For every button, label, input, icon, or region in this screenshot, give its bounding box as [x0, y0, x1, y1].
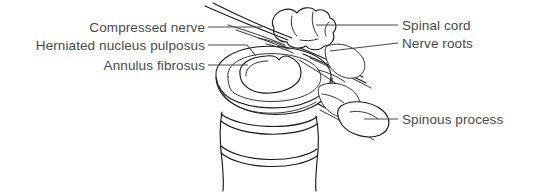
vertebral-body-group	[220, 112, 318, 191]
anatomical-figure: Compressed nerve Herniated nucleus pulpo…	[0, 0, 537, 195]
label-compressed-nerve: Compressed nerve	[0, 20, 205, 35]
label-annulus-fibrosus: Annulus fibrosus	[0, 58, 205, 73]
label-spinal-cord: Spinal cord	[402, 18, 471, 33]
nucleus-pulposus-group	[240, 56, 301, 93]
label-spinous-process: Spinous process	[402, 112, 503, 127]
label-herniated-nucleus-pulposus: Herniated nucleus pulposus	[0, 38, 205, 53]
label-nerve-roots: Nerve roots	[402, 36, 473, 51]
